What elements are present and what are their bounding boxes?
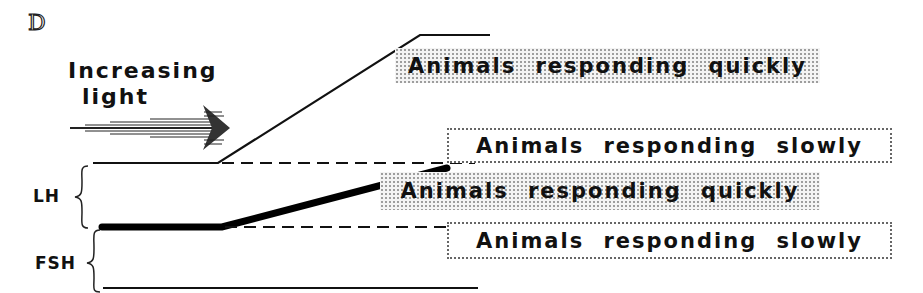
light-arrow-icon [70, 105, 230, 150]
lh-quick-responders-box: Animals responding quickly [395, 48, 820, 83]
increasing-light-label-line2: light [68, 84, 218, 110]
increasing-light-label-line1: Increasing [68, 58, 218, 83]
fsh-label: FSH [35, 253, 76, 273]
fsh-brace-icon [87, 230, 100, 292]
increasing-light-label: Increasing light [68, 58, 218, 110]
lh-label: LH [33, 186, 60, 206]
diagram-panel-d: D Increasing light LH FSH Animals respon… [0, 0, 923, 293]
lh-slow-responders-box: Animals responding slowly [447, 128, 892, 163]
lh-brace-icon [75, 166, 88, 228]
fsh-quick-responders-box: Animals responding quickly [380, 172, 820, 210]
fsh-slow-responders-box: Animals responding slowly [447, 222, 892, 259]
panel-label: D [28, 10, 47, 35]
